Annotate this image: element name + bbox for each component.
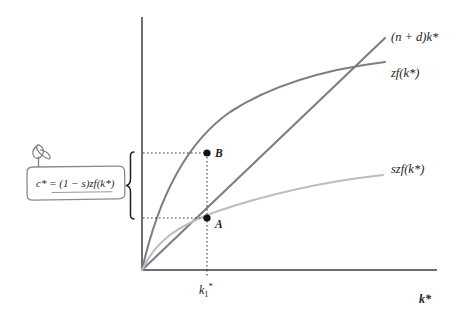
x-axis-label: k* xyxy=(419,293,431,305)
saving-curve xyxy=(142,175,383,270)
bowtie-scribble-icon xyxy=(33,145,50,159)
point-label-b: B xyxy=(215,148,223,160)
diagram-canvas: c* = (1 − s)zf(k*) (n + d)k* zf(k*) szf(… xyxy=(0,0,459,312)
point-marker-a xyxy=(203,214,210,221)
solow-model-figure xyxy=(0,0,459,312)
x-tick-label-k1: k1* xyxy=(199,282,213,300)
annotation-underline xyxy=(52,192,112,193)
point-label-a: A xyxy=(215,219,223,231)
depreciation-line-label: (n + d)k* xyxy=(391,31,438,44)
saving-curve-label: szf(k*) xyxy=(391,163,424,176)
point-marker-b xyxy=(203,149,210,156)
consumption-brace xyxy=(127,152,135,219)
output-curve-label: zf(k*) xyxy=(391,67,419,80)
output-curve xyxy=(142,62,385,270)
depreciation-line-curve xyxy=(142,38,385,270)
consumption-equation-label: c* = (1 − s)zf(k*) xyxy=(36,178,114,189)
